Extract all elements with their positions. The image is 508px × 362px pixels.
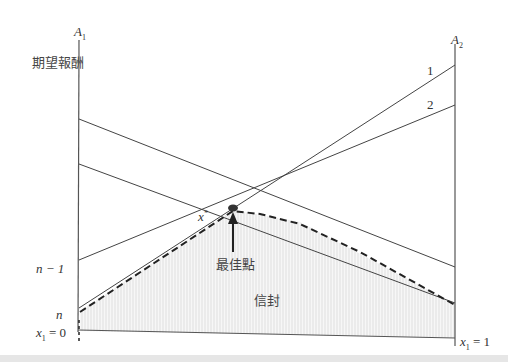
line-1-label: 1	[427, 64, 434, 77]
n-label: n	[56, 308, 63, 321]
right-axis-label: A2	[451, 33, 463, 50]
x1-zero-label: x1 = 0	[36, 326, 66, 343]
optimal-point-marker	[228, 205, 238, 212]
line-2-label: 2	[427, 98, 434, 111]
x-star-label: x*	[198, 210, 208, 223]
y-axis-title: 期望報酬	[32, 56, 84, 69]
x1-one-label: x1 = 1	[460, 335, 490, 352]
envelope-label: 信封	[254, 294, 280, 307]
n-minus-1-label: n − 1	[36, 262, 64, 275]
bottom-band	[0, 355, 508, 362]
left-axis	[78, 40, 79, 332]
optimal-point-label: 最佳點	[216, 258, 255, 271]
left-axis-label: A1	[74, 25, 86, 42]
